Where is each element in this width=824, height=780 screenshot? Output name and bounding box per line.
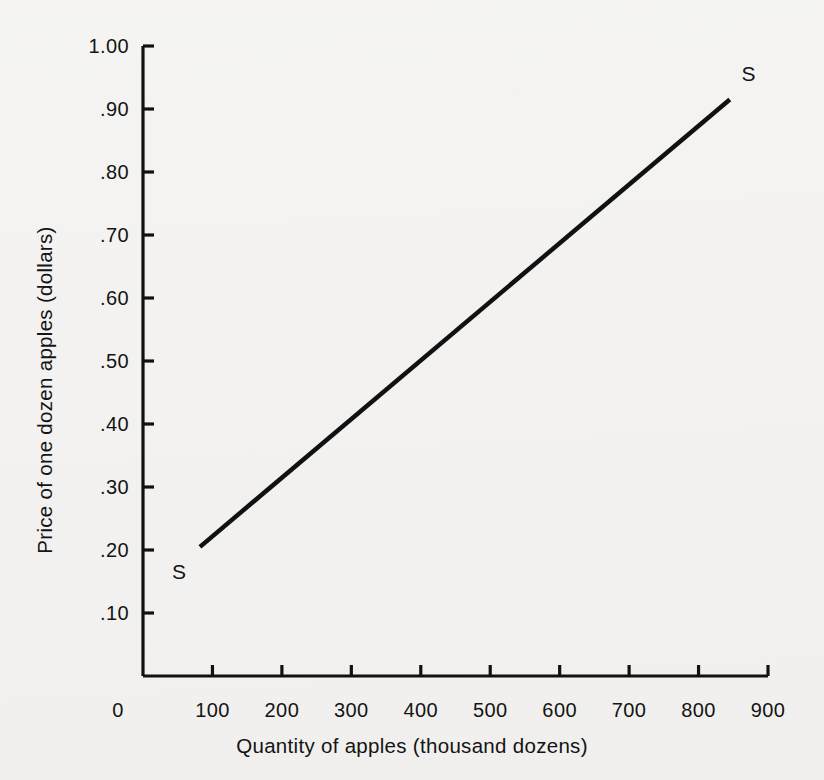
y-axis-ticks <box>143 46 154 613</box>
y-axis-tick-label: 1.00 <box>88 36 129 56</box>
y-axis-tick-label: .80 <box>100 162 129 182</box>
y-axis-tick-label: .60 <box>100 288 129 308</box>
x-axis-tick-label: 100 <box>195 700 230 720</box>
x-axis-ticks <box>212 665 768 676</box>
y-axis-tick-label: .10 <box>100 603 129 623</box>
x-axis-tick-label: 500 <box>473 700 508 720</box>
x-axis-tick-label: 700 <box>612 700 647 720</box>
x-axis-tick-label: 900 <box>751 700 786 720</box>
y-axis-title: Price of one dozen apples (dollars) <box>22 0 68 780</box>
chart-figure: .10.20.30.40.50.60.70.80.901.00 01002003… <box>0 0 824 780</box>
x-axis-tick-label: 600 <box>542 700 577 720</box>
y-axis-tick-label: .90 <box>100 99 129 119</box>
x-axis-tick-label: 300 <box>334 700 369 720</box>
data-series-group <box>200 100 730 547</box>
axis-lines <box>143 46 768 676</box>
y-axis-tick-label: .20 <box>100 540 129 560</box>
x-axis-tick-label: 400 <box>403 700 438 720</box>
y-axis-tick-label: .70 <box>100 225 129 245</box>
supply-label-upper: S <box>742 62 756 86</box>
y-axis-tick-label: .30 <box>100 477 129 497</box>
x-axis-tick-label: 0 <box>112 700 124 720</box>
x-axis-title: Quantity of apples (thousand dozens) <box>0 734 824 758</box>
supply-curve-line <box>200 100 730 547</box>
supply-label-lower: S <box>172 560 186 584</box>
y-axis-tick-label: .50 <box>100 351 129 371</box>
x-axis-tick-label: 200 <box>265 700 300 720</box>
y-axis-tick-label: .40 <box>100 414 129 434</box>
x-axis-tick-label: 800 <box>681 700 716 720</box>
